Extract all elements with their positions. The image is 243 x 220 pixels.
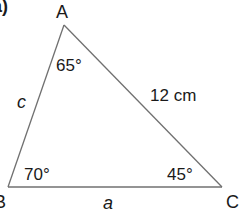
angle-b-label: 70° [24,165,50,184]
side-a-label: a [103,193,113,213]
side-ac-length-label: 12 cm [150,86,196,105]
side-c-label: c [17,92,26,112]
angle-c-label: 45° [167,165,193,184]
side-ac [64,25,222,187]
part-label: a) [0,0,8,16]
vertex-c-label: C [226,192,239,212]
triangle-diagram: a) A B C 65° 70° 45° c a 12 cm [0,0,243,220]
vertex-b-label: B [0,192,6,212]
angle-a-label: 65° [56,56,82,75]
vertex-a-label: A [56,2,68,22]
